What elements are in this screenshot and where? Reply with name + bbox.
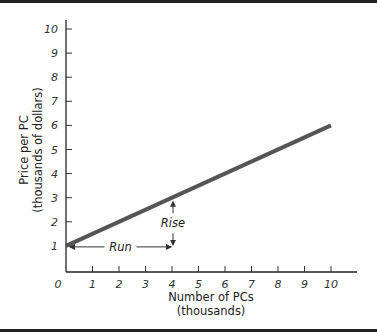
x-tick-label: 8 [275,278,282,291]
y-tick-label: 3 [51,192,58,205]
price-line [66,125,331,245]
y-tick-label: 9 [51,47,58,60]
x-axis-title: Number of PCs [168,290,254,304]
x-tick-label: 1 [89,278,96,291]
y-tick-label: 2 [51,216,58,229]
y-tick-label: 7 [51,95,58,108]
y-tick-label: 8 [51,71,58,84]
x-axis-subtitle: (thousands) [177,304,246,318]
data-series [66,125,331,245]
x-tick-label: 2 [116,278,123,291]
y-tick-label: 1 [51,240,58,253]
run-label: Run [109,240,132,254]
x-tick-label: 9 [301,278,308,291]
y-tick-label: 6 [51,119,58,132]
y-tick-label: 4 [51,168,58,181]
rise-label: Rise [161,216,185,230]
x-tick-label: 0 [55,278,62,291]
ticks: 01234567891012345678910 [44,23,338,291]
annotations: RunRise [70,202,185,254]
line-chart: 01234567891012345678910 RunRise Number o… [0,0,377,334]
x-tick-label: 10 [324,278,338,291]
axes [66,20,357,272]
y-tick-label: 10 [44,23,58,36]
y-axis-subtitle: (thousands of dollars) [31,87,45,213]
y-tick-label: 5 [51,144,58,157]
y-axis-title: Price per PC [17,115,31,184]
x-tick-label: 3 [142,278,149,291]
